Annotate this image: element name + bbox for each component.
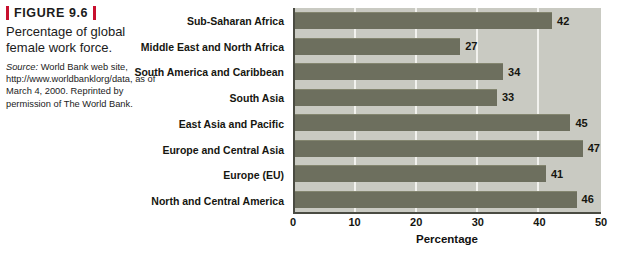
bar-value-label: 34	[508, 66, 520, 78]
category-label: East Asia and Pacific	[165, 115, 289, 132]
category-label: Middle East and North Africa	[165, 38, 289, 55]
bar-value-label: 45	[575, 117, 587, 129]
bar-row: 34	[295, 63, 601, 80]
category-axis-labels: Sub-Saharan Africa Middle East and North…	[165, 8, 289, 214]
bar	[295, 38, 460, 55]
figure-title: Percentage of global female work force.	[6, 24, 156, 56]
x-tick: 20	[410, 216, 422, 228]
bar-row: 45	[295, 114, 601, 131]
bar	[295, 140, 583, 157]
x-tick: 50	[595, 216, 607, 228]
bar-row: 33	[295, 89, 601, 106]
bar-row: 27	[295, 38, 601, 55]
category-label: Europe (EU)	[165, 167, 289, 184]
bar	[295, 12, 552, 29]
figure-caption-block: FIGURE 9.6 Percentage of global female w…	[6, 6, 156, 110]
x-tick: 10	[348, 216, 360, 228]
x-tick: 30	[472, 216, 484, 228]
figure-number: FIGURE 9.6	[14, 6, 88, 20]
bar	[295, 165, 546, 182]
bar-value-label: 27	[465, 40, 477, 52]
bar-series: 42 27 34 33 45	[295, 8, 601, 212]
figure-heading: FIGURE 9.6	[6, 6, 156, 20]
bar-value-label: 42	[557, 15, 569, 27]
bar-row: 41	[295, 165, 601, 182]
category-label: Sub-Saharan Africa	[165, 12, 289, 29]
category-label: South America and Caribbean	[165, 64, 289, 81]
bar	[295, 89, 497, 106]
bar-value-label: 47	[588, 142, 600, 154]
bar	[295, 191, 577, 208]
red-rule-left-icon	[6, 6, 9, 20]
source-label: Source:	[6, 62, 38, 72]
bar-value-label: 41	[551, 168, 563, 180]
x-tick: 0	[290, 216, 296, 228]
bar-value-label: 33	[502, 91, 514, 103]
category-label: South Asia	[165, 90, 289, 107]
plot-area: 42 27 34 33 45	[293, 8, 601, 214]
bar	[295, 63, 503, 80]
category-label: North and Central America	[165, 193, 289, 210]
bar	[295, 114, 570, 131]
bar-chart: Sub-Saharan Africa Middle East and North…	[165, 0, 635, 258]
bar-value-label: 46	[582, 193, 594, 205]
category-label: Europe and Central Asia	[165, 141, 289, 158]
figure-page: FIGURE 9.6 Percentage of global female w…	[0, 0, 635, 258]
red-rule-right-icon	[93, 6, 96, 20]
bar-row: 46	[295, 191, 601, 208]
bar-row: 42	[295, 12, 601, 29]
bar-row: 47	[295, 140, 601, 157]
x-axis-ticks: 0 10 20 30 40 50	[293, 216, 601, 232]
x-axis-title: Percentage	[293, 233, 601, 245]
x-tick: 40	[533, 216, 545, 228]
